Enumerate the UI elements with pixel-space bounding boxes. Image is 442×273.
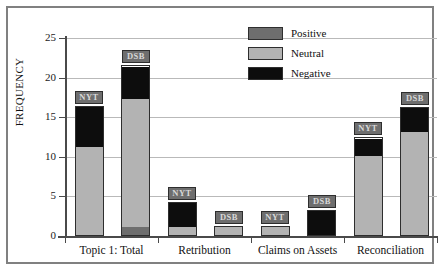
category-label: Reconciliation xyxy=(344,244,437,257)
y-tick-label-wrap: 25 xyxy=(26,32,56,43)
bar-segment-negative xyxy=(122,67,149,99)
bar-segment-negative xyxy=(355,139,382,156)
bar-source-tag: DSB xyxy=(401,92,429,105)
category-label: Retribution xyxy=(158,244,251,257)
bar-nyt-0[interactable] xyxy=(75,106,104,236)
bar-dsb-2[interactable] xyxy=(307,210,336,236)
chart-legend: PositiveNeutralNegative xyxy=(248,26,363,86)
y-tick-label: 20 xyxy=(30,72,56,83)
legend-label: Positive xyxy=(291,26,326,41)
bar-segment-positive xyxy=(122,227,149,235)
legend-label: Neutral xyxy=(291,46,324,61)
bar-segment-negative xyxy=(308,211,335,235)
legend-item[interactable]: Neutral xyxy=(248,46,363,62)
bar-segment-neutral xyxy=(355,156,382,235)
x-axis-line xyxy=(58,236,438,238)
bar-nyt-1[interactable] xyxy=(168,202,197,236)
category-separator xyxy=(158,236,159,243)
y-tick-label: 25 xyxy=(30,32,56,43)
category-separator xyxy=(344,236,345,243)
bar-segment-negative xyxy=(401,108,428,132)
bar-segment-neutral xyxy=(401,132,428,235)
chart-frame: 0510152025 FREQUENCY Topic 1: TotalRetri… xyxy=(6,6,434,264)
bar-source-tag: NYT xyxy=(261,211,289,224)
bar-source-tag: NYT xyxy=(354,122,382,135)
y-tick-label-wrap: 10 xyxy=(26,151,56,162)
category-label: Topic 1: Total xyxy=(65,244,158,257)
y-tick-label-wrap: 0 xyxy=(26,230,56,241)
bar-dsb-0[interactable] xyxy=(121,65,150,236)
category-separator xyxy=(251,236,252,243)
legend-label: Negative xyxy=(291,66,331,81)
bar-nyt-2[interactable] xyxy=(261,226,290,236)
y-tick-label-wrap: 5 xyxy=(26,190,56,201)
y-tick-label-wrap: 15 xyxy=(26,111,56,122)
legend-item[interactable]: Negative xyxy=(248,66,363,82)
bar-dsb-3[interactable] xyxy=(400,107,429,236)
category-separator xyxy=(65,236,66,243)
y-tick-label: 0 xyxy=(30,230,56,241)
category-separator xyxy=(437,236,438,243)
bar-segment-neutral xyxy=(262,227,289,235)
bar-segment-neutral xyxy=(215,227,242,235)
bar-source-tag: DSB xyxy=(215,211,243,224)
bar-segment-neutral xyxy=(76,147,103,235)
legend-swatch-positive xyxy=(248,27,283,40)
y-axis-title: FREQUENCY xyxy=(13,32,25,152)
y-tick-label-wrap: 20 xyxy=(26,72,56,83)
legend-swatch-negative xyxy=(248,67,283,80)
bar-dsb-1[interactable] xyxy=(214,226,243,236)
bar-source-tag: DSB xyxy=(122,50,150,63)
category-label: Claims on Assets xyxy=(251,244,344,257)
bar-segment-negative xyxy=(169,203,196,227)
bar-segment-neutral xyxy=(122,99,149,227)
bar-source-tag: NYT xyxy=(168,187,196,200)
bar-segment-neutral xyxy=(169,227,196,235)
bar-nyt-3[interactable] xyxy=(354,137,383,236)
bar-source-tag: DSB xyxy=(308,195,336,208)
y-tick-label: 15 xyxy=(30,111,56,122)
bar-source-tag: NYT xyxy=(75,91,103,104)
legend-item[interactable]: Positive xyxy=(248,26,363,42)
y-tick-label: 5 xyxy=(30,190,56,201)
bar-segment-negative xyxy=(76,107,103,147)
legend-swatch-neutral xyxy=(248,47,283,60)
y-tick-label: 10 xyxy=(30,151,56,162)
